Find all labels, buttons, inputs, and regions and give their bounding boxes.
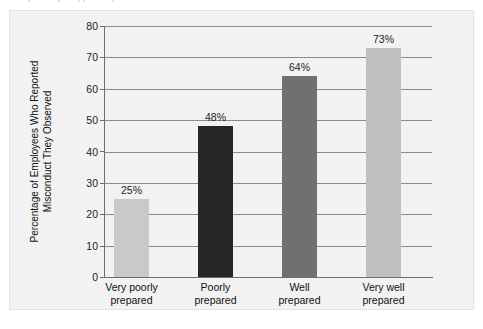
y-axis-title-line1: Percentage of Employees Who Reported (28, 61, 41, 243)
y-tick-label: 40 (58, 146, 98, 158)
cropped-caption-text: partially cropped caption line (28, 0, 151, 2)
x-axis-line (104, 277, 433, 278)
bar-poorly-prepared[interactable]: 48% (198, 126, 233, 277)
bar-value-label: 48% (205, 111, 226, 123)
y-tick-mark (100, 151, 104, 152)
y-tick-label: 70 (58, 51, 98, 63)
y-tick-mark (100, 214, 104, 215)
bar-very-poorly-prepared[interactable]: 25% (114, 199, 149, 277)
bar-very-well-prepared[interactable]: 73% (366, 48, 401, 277)
x-axis-tick-labels: Very poorly prepared Poorly prepared Wel… (104, 281, 432, 315)
y-tick-label: 80 (58, 20, 98, 32)
plot-area: 25% 48% 64% 73% (104, 26, 432, 277)
y-tick-mark (100, 120, 104, 121)
y-tick-label: 50 (58, 114, 98, 126)
y-tick-mark (100, 26, 104, 27)
y-axis-title-line2: Misconduct They Observed (41, 91, 54, 213)
y-tick-mark (100, 57, 104, 58)
y-tick-mark (100, 277, 104, 278)
cropped-caption-strip: partially cropped caption line (0, 0, 483, 8)
y-axis-tick-labels: 80 70 60 50 40 30 20 10 0 (54, 26, 98, 277)
y-axis-title: Percentage of Employees Who Reported Mis… (26, 26, 56, 277)
x-tick-label-line2: prepared (329, 294, 439, 307)
y-tick-label: 30 (58, 177, 98, 189)
x-tick-label-very-well-prepared: Very well prepared (329, 281, 439, 307)
y-axis-line (104, 26, 105, 278)
bar-value-label: 25% (121, 184, 142, 196)
y-tick-label: 10 (58, 240, 98, 252)
x-tick-label-line1: Very well (329, 281, 439, 294)
bar-value-label: 73% (373, 33, 394, 45)
chart-figure: partially cropped caption line 25% 48% 6… (0, 0, 483, 329)
y-tick-label: 20 (58, 208, 98, 220)
y-tick-label: 60 (58, 83, 98, 95)
bar-well-prepared[interactable]: 64% (282, 76, 317, 277)
y-tick-mark (100, 246, 104, 247)
bar-value-label: 64% (289, 61, 310, 73)
y-tick-mark (100, 183, 104, 184)
y-tick-mark (100, 89, 104, 90)
gridline (104, 26, 432, 27)
